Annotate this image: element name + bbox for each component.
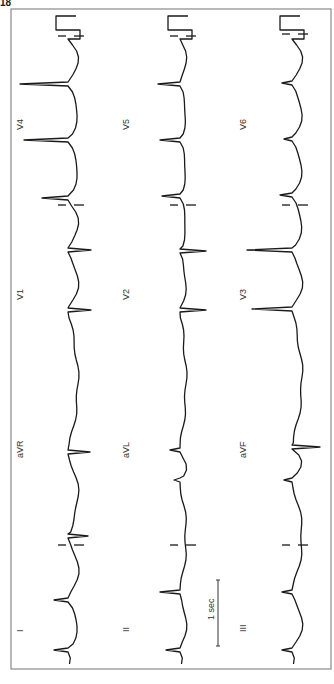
ecg-figure: 18 IaVRV1V4IIaVLV2V5IIIaVFV3V6 1 sec [0,0,334,684]
lead-label-iii: III [238,624,248,632]
lead-label-v4: V4 [15,119,25,130]
ecg-trace-row-2 [247,16,320,664]
ecg-trace-row-0 [20,16,91,664]
lead-label-v3: V3 [238,289,248,300]
lead-labels: IaVRV1V4IIaVLV2V5IIIaVFV3V6 [15,119,248,632]
ecg-traces [20,16,320,664]
figure-number: 18 [0,0,12,8]
lead-label-ii: II [121,627,131,632]
ecg-trace-row-1 [158,16,206,664]
lead-label-v2: V2 [121,289,131,300]
lead-label-avf: aVF [238,441,248,458]
lead-label-v1: V1 [15,289,25,300]
scale-bar-label: 1 sec [206,598,216,620]
lead-label-i: I [15,629,25,632]
lead-label-v5: V5 [121,119,131,130]
scale-bar: 1 sec [206,580,220,646]
chart-frame [11,9,331,669]
lead-label-avl: aVL [121,442,131,458]
lead-label-avr: aVR [15,440,25,458]
lead-label-v6: V6 [238,119,248,130]
